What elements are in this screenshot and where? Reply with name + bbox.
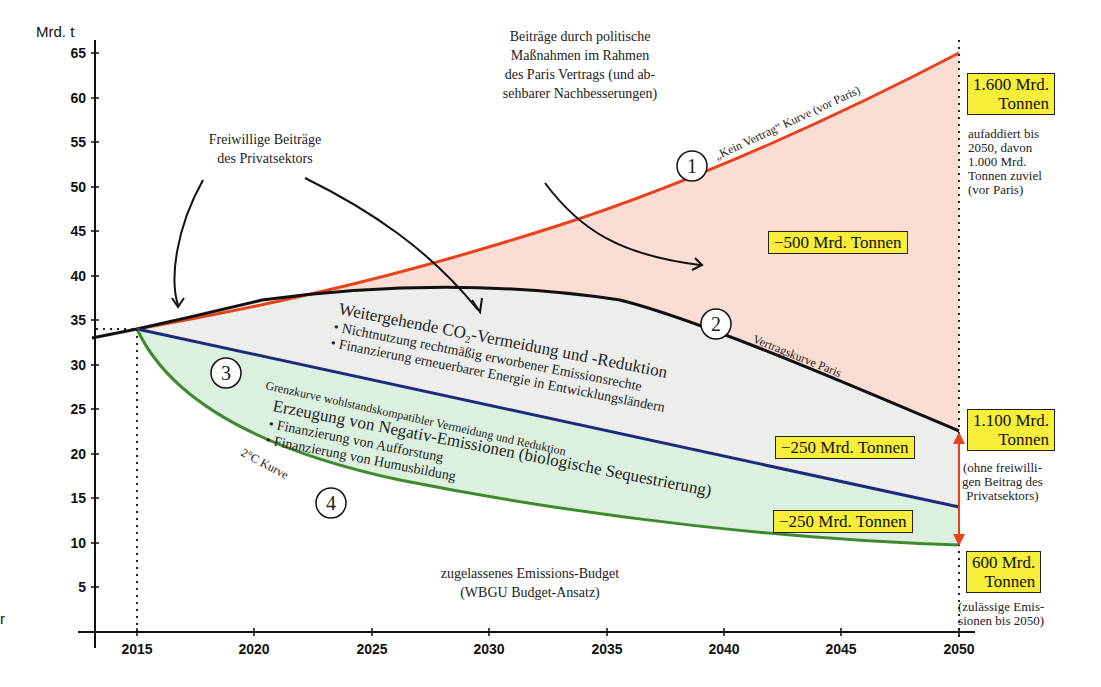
note-line: Beiträge durch politische	[425, 27, 735, 46]
note-line: (ohne freiwilli-	[962, 461, 1043, 475]
note-line: (WBGU Budget-Ansatz)	[405, 583, 655, 602]
label-2c-curve: 2°C Kurve	[239, 445, 291, 482]
note-line: Maßnahmen im Rahmen	[425, 46, 735, 65]
note-1600: aufaddiert bis 2050, davon 1.000 Mrd. To…	[968, 127, 1042, 197]
svg-text:2030: 2030	[473, 641, 504, 657]
svg-text:45: 45	[70, 223, 86, 239]
svg-text:1: 1	[687, 155, 697, 177]
callout-1100: 1.100 Mrd. Tonnen	[967, 409, 1055, 451]
callout-600: 600 Mrd. Tonnen	[966, 551, 1041, 593]
svg-text:35: 35	[70, 312, 86, 328]
note-line: (vor Paris)	[968, 183, 1042, 197]
svg-text:50: 50	[70, 179, 86, 195]
svg-text:3: 3	[221, 362, 231, 384]
circle-marker-3: 3	[211, 358, 241, 388]
callout-line: 1.100 Mrd.	[973, 411, 1049, 430]
svg-text:20: 20	[70, 446, 86, 462]
svg-text:65: 65	[70, 45, 86, 61]
note-line: 1.000 Mrd.	[968, 155, 1042, 169]
svg-text:60: 60	[70, 90, 86, 106]
svg-text:2035: 2035	[591, 641, 622, 657]
svg-text:5: 5	[78, 579, 86, 595]
note-line: zugelassenes Emissions-Budget	[405, 564, 655, 583]
svg-text:15: 15	[70, 490, 86, 506]
svg-text:2040: 2040	[708, 641, 739, 657]
note-line: des Privatsektors	[160, 149, 370, 168]
callout-line: 1.600 Mrd.	[973, 75, 1049, 94]
note-1100: (ohne freiwilli- gen Beitrag des Privats…	[962, 461, 1043, 503]
svg-text:2020: 2020	[238, 641, 269, 657]
svg-text:2050: 2050	[943, 641, 974, 657]
svg-text:25: 25	[70, 401, 86, 417]
note-line: sionen bis 2050)	[958, 614, 1044, 628]
x-tick-labels: 2015 2020 2025 2030 2035 2040 2045 2050	[121, 641, 974, 657]
note-line: gen Beitrag des	[962, 475, 1043, 489]
note-line: 2050, davon	[968, 141, 1042, 155]
curve-history	[92, 329, 137, 338]
svg-text:10: 10	[70, 535, 86, 551]
circle-marker-4: 4	[316, 488, 346, 518]
note-line: Freiwillige Beiträge	[160, 130, 370, 149]
note-600: (zulässige Emis- sionen bis 2050)	[958, 600, 1044, 628]
budget-note: zugelassenes Emissions-Budget (WBGU Budg…	[405, 564, 655, 602]
callout-minus-250-negative: −250 Mrd. Tonnen	[773, 510, 913, 533]
circle-marker-1: 1	[677, 151, 707, 181]
callout-minus-250-paris: −250 Mrd. Tonnen	[775, 436, 915, 459]
y-tick-labels: 65 60 55 50 45 40 35 30 25 20 15 10 5	[70, 45, 86, 595]
svg-text:2: 2	[711, 313, 721, 335]
circle-marker-2: 2	[701, 309, 731, 339]
svg-text:4: 4	[326, 492, 336, 514]
svg-text:40: 40	[70, 268, 86, 284]
y-axis-unit: Mrd. t	[36, 23, 75, 40]
note-line: Tonnen zuviel	[968, 169, 1042, 183]
note-line: aufaddiert bis	[968, 127, 1042, 141]
stray-edge-text: r	[0, 610, 5, 627]
svg-text:2045: 2045	[825, 641, 856, 657]
callout-line: Tonnen	[972, 572, 1035, 591]
svg-text:2015: 2015	[121, 641, 152, 657]
svg-text:2025: 2025	[356, 641, 387, 657]
note-line: (zulässige Emis-	[958, 600, 1044, 614]
callout-1600: 1.600 Mrd. Tonnen	[967, 73, 1055, 115]
svg-text:55: 55	[70, 134, 86, 150]
note-line: Privatsektors)	[962, 489, 1043, 503]
callout-line: Tonnen	[973, 430, 1049, 449]
svg-text:30: 30	[70, 357, 86, 373]
political-contributions-note: Beiträge durch politische Maßnahmen im R…	[425, 27, 735, 103]
callout-line: Tonnen	[973, 94, 1049, 113]
callout-line: 600 Mrd.	[972, 553, 1035, 572]
private-contributions-note: Freiwillige Beiträge des Privatsektors	[160, 130, 370, 168]
note-line: sehbarer Nachbesserungen)	[425, 84, 735, 103]
note-line: des Paris Vertrags (und ab-	[425, 65, 735, 84]
callout-minus-500: −500 Mrd. Tonnen	[768, 231, 908, 254]
